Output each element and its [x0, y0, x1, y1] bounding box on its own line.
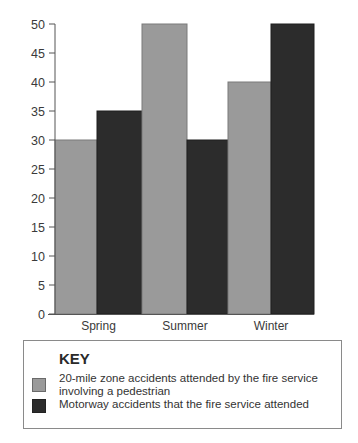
legend-label: Motorway accidents that the fire service…	[59, 398, 334, 411]
x-tick-label: Winter	[254, 319, 289, 333]
legend-label: 20-mile zone accidents attended by the f…	[59, 372, 334, 397]
y-tick-label: 45	[31, 47, 45, 61]
y-tick-label: 0	[38, 308, 45, 322]
y-tick-label: 25	[31, 163, 45, 177]
bar-summer-motorway	[187, 140, 228, 314]
y-tick-label: 10	[31, 250, 45, 264]
bar-spring-pedestrian	[55, 140, 97, 314]
legend-box: KEY 20-mile zone accidents attended by t…	[23, 340, 342, 429]
legend-title: KEY	[59, 350, 90, 367]
y-tick-label: 5	[38, 279, 45, 293]
legend-label-line: involving a pedestrian	[59, 385, 334, 398]
bar-winter-motorway	[271, 24, 314, 314]
y-tick-label: 15	[31, 221, 45, 235]
legend-swatch-light	[32, 378, 46, 392]
legend-label-line: Motorway accidents that the fire service…	[59, 398, 334, 411]
x-axis-labels: SpringSummerWinter	[81, 319, 288, 333]
y-tick-label: 40	[31, 76, 45, 90]
legend-item-motorway: Motorway accidents that the fire service…	[32, 398, 334, 413]
bar-summer-pedestrian	[142, 24, 187, 314]
bar-spring-motorway	[97, 111, 142, 314]
y-tick-label: 50	[31, 18, 45, 32]
bar-winter-pedestrian	[228, 82, 271, 314]
bar-chart: 05101520253035404550 SpringSummerWinter	[0, 0, 358, 335]
y-tick-label: 30	[31, 134, 45, 148]
legend-swatch-dark	[32, 399, 46, 413]
legend-label-line: 20-mile zone accidents attended by the f…	[59, 372, 334, 385]
bars-group	[55, 24, 314, 314]
x-tick-label: Summer	[162, 319, 207, 333]
legend-item-20-mile-zone: 20-mile zone accidents attended by the f…	[32, 372, 334, 397]
y-tick-label: 20	[31, 192, 45, 206]
x-tick-label: Spring	[81, 319, 116, 333]
y-tick-label: 35	[31, 105, 45, 119]
